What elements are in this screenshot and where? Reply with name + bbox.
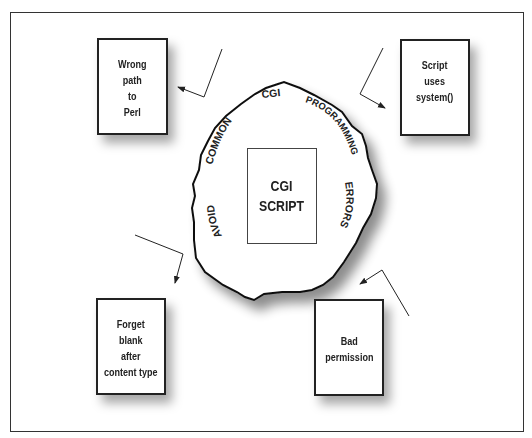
cgi-script-label: CGI SCRIPT: [259, 176, 304, 216]
arrow-wrong-path: [178, 49, 222, 97]
arrow-system-call: [360, 48, 385, 108]
error-box-system-call: Script uses system(): [400, 39, 470, 136]
error-box-forget-blank: Forget blank after content type: [96, 298, 166, 395]
error-label-bad-permission: Bad permission: [325, 333, 373, 365]
error-box-wrong-path: Wrong path to Perl: [97, 38, 168, 135]
arrow-forget-blank: [135, 235, 183, 283]
ring-word-cgi: CGI: [261, 86, 281, 100]
error-box-bad-permission: Bad permission: [314, 299, 384, 396]
cgi-script-box: CGI SCRIPT: [247, 148, 317, 244]
error-label-forget-blank: Forget blank after content type: [104, 316, 158, 380]
error-label-wrong-path: Wrong path to Perl: [118, 56, 146, 120]
error-label-system-call: Script uses system(): [416, 57, 453, 105]
